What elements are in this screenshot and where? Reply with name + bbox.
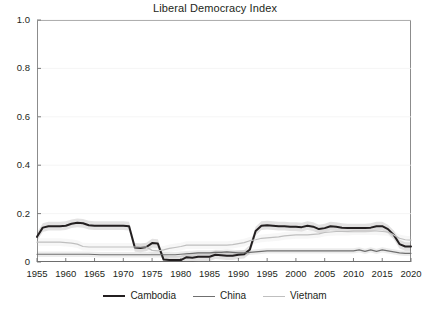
y-tick-label: 0.8 [0,62,30,73]
y-tick-label: 0.6 [0,111,30,122]
y-tick-label: 0 [0,256,30,267]
plot-area [37,20,411,262]
chart-title: Liberal Democracy Index [0,2,430,14]
legend-item-vietnam[interactable]: Vietnam [263,290,327,302]
legend-line-icon [193,296,215,297]
legend-item-china[interactable]: China [193,290,246,302]
legend-line-icon [263,296,285,297]
legend-label: Cambodia [130,290,176,302]
legend-line-icon [103,295,125,297]
legend-label: Vietnam [290,290,327,302]
y-tick-label: 1.0 [0,14,30,25]
y-tick-label: 0.2 [0,208,30,219]
chart-legend: CambodiaChinaVietnam [0,290,430,302]
legend-label: China [220,290,246,302]
liberal-democracy-index-chart: Liberal Democracy Index 00.20.40.60.81.0… [0,0,430,314]
legend-item-cambodia[interactable]: Cambodia [103,290,176,302]
y-tick-label: 0.4 [0,159,30,170]
x-tick-label: 2020 [391,268,430,279]
